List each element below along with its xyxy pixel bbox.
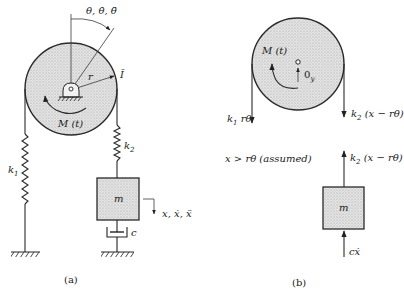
damper-c [107,220,127,252]
damping-force-label: cẋ [349,246,361,257]
inertia-label: Ī [119,69,125,80]
mass-label: m [114,193,123,204]
mass-label-fbd: m [339,202,348,213]
spring-k2 [114,125,120,161]
force-mass-top-label: k2 (x − rθ) [350,152,403,166]
angle-arc-arrow [71,19,110,30]
force-right-label: k2 (x − rθ) [351,108,404,122]
force-left-label: k1 rθ [227,113,252,127]
spring-k1-label: k1 [8,164,19,178]
diagram-canvas: θ, θ̇, θ̈ r Ī M (t) k1 k2 m [0,0,404,295]
displacement-label: x, ẋ, ẍ [162,208,192,219]
displacement-arrow [143,199,154,214]
moment-label: M (t) [57,118,83,129]
spring-k2-label: k2 [124,140,135,154]
pin-hole-icon [296,60,300,64]
panel-a: θ, θ̇, θ̈ r Ī M (t) k1 k2 m [8,5,192,285]
panel-b: 0y M (t) k1 rθ k2 (x − rθ) x > rθ (assum… [225,18,404,288]
damper-label: c [131,227,137,238]
ground-left-icon [11,252,40,257]
caption-b: (b) [292,277,306,288]
ground-right-icon [101,252,134,257]
spring-k1 [22,134,28,204]
assumption-note: x > rθ (assumed) [225,153,312,164]
caption-a: (a) [64,274,78,285]
angle-label: θ, θ̇, θ̈ [86,5,117,16]
moment-label-fbd: M (t) [261,45,287,56]
